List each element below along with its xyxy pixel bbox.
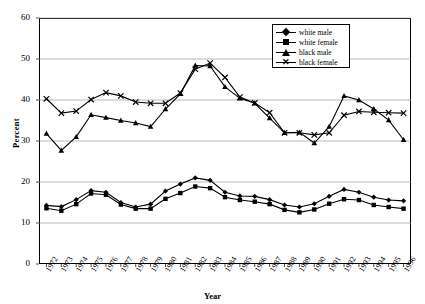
legend-label: white female [296,38,338,47]
series-black-male [44,63,407,153]
y-axis-title: Percent [11,103,21,163]
legend-item-black-female: ✕ black female [276,57,349,67]
y-tick-label: 40 [0,94,30,104]
series-black-female [44,60,407,137]
y-tick-label: 30 [0,135,30,145]
legend-item-white-female: white female [276,37,349,47]
y-tick-label: 0 [0,258,30,268]
y-tick-label: 60 [0,12,30,22]
x-axis-title: Year [0,291,425,301]
white-male-marker-icon [276,28,296,37]
legend-label: white male [296,28,332,37]
black-female-marker-icon: ✕ [276,58,296,67]
white-female-marker-icon [276,38,296,47]
series-white-female [44,184,406,214]
y-tick-label: 10 [0,217,30,227]
legend-item-white-male: white male [276,27,349,37]
y-tick-label: 20 [0,176,30,186]
legend-item-black-male: black male [276,47,349,57]
legend: white male white female black male ✕ bla… [272,24,350,68]
y-tick-label: 50 [0,53,30,63]
black-male-marker-icon [276,48,296,57]
series-white-male [44,175,406,209]
legend-label: black male [296,48,332,57]
chart-container: Percent Year 0102030405060 1972197319741… [0,0,425,304]
legend-label: black female [296,58,338,67]
